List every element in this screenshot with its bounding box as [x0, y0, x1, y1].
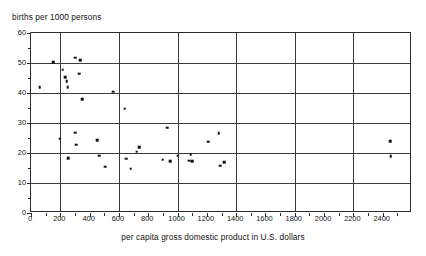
- data-point: [52, 61, 55, 64]
- data-point: [61, 69, 64, 72]
- x-tick-label: 2000: [315, 214, 331, 223]
- data-point: [191, 160, 194, 163]
- data-point: [123, 107, 126, 110]
- y-tick-label: 10: [4, 178, 26, 187]
- data-point: [112, 90, 115, 93]
- data-point: [166, 127, 169, 130]
- data-point: [64, 76, 67, 79]
- x-tick-label: 1800: [286, 214, 302, 223]
- y-tick-major: [27, 123, 31, 124]
- x-tick-label: 200: [53, 214, 65, 223]
- data-point: [189, 154, 192, 157]
- x-tick-minor: [397, 213, 398, 216]
- gridline-vertical: [236, 33, 237, 211]
- x-tick-label: 1000: [168, 214, 184, 223]
- gridline-horizontal: [31, 183, 410, 184]
- x-tick-label: 0: [28, 214, 32, 223]
- gridline-vertical: [119, 33, 120, 211]
- x-tick-minor: [163, 213, 164, 216]
- data-point: [58, 137, 61, 140]
- y-tick-minor: [28, 78, 31, 79]
- data-point: [169, 160, 172, 163]
- data-point: [125, 157, 128, 160]
- data-point: [129, 168, 132, 171]
- x-axis-title: per capita gross domestic product in U.S…: [0, 232, 426, 242]
- data-point: [219, 164, 222, 167]
- data-point: [104, 165, 107, 168]
- y-tick-major: [27, 63, 31, 64]
- data-point: [66, 80, 69, 83]
- y-tick-label: 30: [4, 118, 26, 127]
- gridline-horizontal: [31, 153, 410, 154]
- y-tick-minor: [28, 48, 31, 49]
- x-tick-label: 1200: [198, 214, 214, 223]
- y-tick-minor: [28, 168, 31, 169]
- y-tick-label: 40: [4, 88, 26, 97]
- data-point: [81, 98, 84, 101]
- data-point: [96, 139, 99, 142]
- x-tick-label: 2200: [344, 214, 360, 223]
- y-tick-minor: [28, 138, 31, 139]
- x-tick-minor: [75, 213, 76, 216]
- data-point: [79, 59, 82, 62]
- x-tick-minor: [46, 213, 47, 216]
- gridline-horizontal: [31, 123, 410, 124]
- x-tick-label: 1400: [227, 214, 243, 223]
- data-point: [74, 131, 77, 134]
- gridline-horizontal: [31, 93, 410, 94]
- data-point: [176, 154, 179, 157]
- y-tick-minor: [28, 108, 31, 109]
- data-point: [135, 151, 138, 154]
- x-tick-label: 1600: [256, 214, 272, 223]
- x-tick-minor: [222, 213, 223, 216]
- x-tick-minor: [339, 213, 340, 216]
- data-point: [389, 155, 392, 158]
- gridline-vertical: [178, 33, 179, 211]
- data-point: [75, 144, 78, 147]
- data-point: [223, 161, 226, 164]
- data-point: [138, 146, 141, 149]
- data-point: [217, 132, 220, 135]
- data-point: [389, 140, 392, 143]
- gridline-vertical: [295, 33, 296, 211]
- y-tick-major: [27, 33, 31, 34]
- x-tick-minor: [192, 213, 193, 216]
- gridline-horizontal: [31, 63, 410, 64]
- plot-area: [30, 32, 411, 212]
- y-tick-label: 60: [4, 28, 26, 37]
- x-tick-minor: [134, 213, 135, 216]
- y-axis-title: births per 1000 persons: [12, 12, 101, 22]
- data-point: [66, 86, 69, 89]
- gridline-vertical: [60, 33, 61, 211]
- x-tick-minor: [309, 213, 310, 216]
- y-tick-label: 50: [4, 58, 26, 67]
- y-tick-major: [27, 153, 31, 154]
- y-tick-major: [27, 93, 31, 94]
- x-tick-minor: [368, 213, 369, 216]
- y-tick-major: [27, 183, 31, 184]
- gridline-vertical: [353, 33, 354, 211]
- y-tick-label: 0: [4, 208, 26, 217]
- data-point: [162, 158, 165, 161]
- scatter-plot-figure: births per 1000 persons per capita gross…: [0, 0, 426, 256]
- x-tick-minor: [251, 213, 252, 216]
- data-point: [38, 86, 41, 89]
- data-point: [78, 72, 81, 75]
- data-point: [207, 140, 210, 143]
- x-tick-label: 400: [82, 214, 94, 223]
- x-tick-minor: [280, 213, 281, 216]
- y-tick-minor: [28, 198, 31, 199]
- data-point: [67, 157, 70, 160]
- x-tick-label: 600: [112, 214, 124, 223]
- x-tick-label: 2400: [373, 214, 389, 223]
- x-tick-minor: [104, 213, 105, 216]
- data-point: [98, 154, 101, 157]
- data-point: [74, 56, 77, 59]
- x-tick-label: 800: [141, 214, 153, 223]
- y-tick-label: 20: [4, 148, 26, 157]
